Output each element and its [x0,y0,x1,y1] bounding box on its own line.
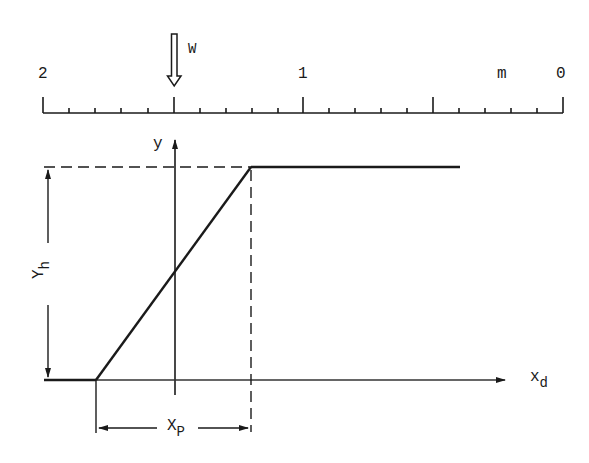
xp-label: XP [167,418,185,434]
yh-label: Yh [31,261,47,279]
xp-label-main: X [167,417,177,435]
y-axis-label: y [153,136,163,152]
x-axis-label-sub: d [540,375,548,391]
yh-label-main: Y [30,269,48,279]
xp-label-sub: P [177,424,185,440]
x-axis-label-main: x [530,368,540,386]
scale-label-2: 2 [38,66,48,82]
scale-label-0: 0 [556,66,566,82]
distance-scale [43,97,563,113]
scale-label-1: 1 [298,66,308,82]
x-axis-label: xd [530,369,548,385]
w-position-arrow-icon [168,34,182,86]
ramp-line [96,167,251,380]
scale-unit-label: m [497,66,507,82]
yh-label-sub: h [37,261,53,269]
w-label: W [188,42,196,56]
